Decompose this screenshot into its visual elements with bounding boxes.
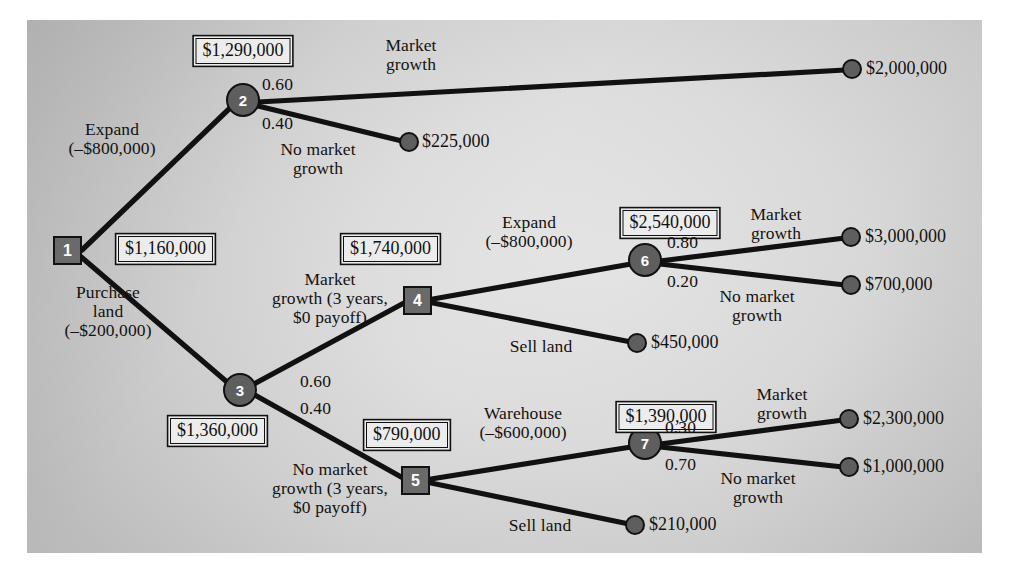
ev-box-node-2: $1,290,000 xyxy=(196,38,291,64)
payoff-n5-sell-land: $210,000 xyxy=(649,514,717,534)
ev-box-node-4: $1,740,000 xyxy=(343,236,438,262)
prob-node-2-no-growth: 0.40 xyxy=(262,114,293,133)
label-market-growth-node-7: Market growth xyxy=(756,385,807,423)
node-2-label: 2 xyxy=(239,92,247,109)
chance-node-3[interactable]: 3 xyxy=(223,373,257,407)
branch-4-to-6 xyxy=(433,264,631,299)
terminal-node-2300000 xyxy=(839,409,859,429)
payoff-n2-no-growth: $225,000 xyxy=(422,131,490,151)
prob-node-2-growth: 0.60 xyxy=(262,75,293,94)
prob-node-6-growth: 0.80 xyxy=(667,233,698,252)
terminal-node-225000 xyxy=(399,132,419,152)
node-1-label: 1 xyxy=(63,242,72,260)
label-expand-from-node-1: Expand (–$800,000) xyxy=(68,120,155,158)
payoff-n6-no-growth: $700,000 xyxy=(865,274,933,294)
node-3-label: 3 xyxy=(236,382,244,399)
ev-box-node-1: $1,160,000 xyxy=(118,236,213,262)
label-no-market-growth-node-7: No market growth xyxy=(720,469,795,507)
chance-node-6[interactable]: 6 xyxy=(628,243,662,277)
decision-node-1[interactable]: 1 xyxy=(53,236,82,265)
terminal-node-3000000 xyxy=(841,227,861,247)
branch-2-to-growth xyxy=(258,70,845,102)
label-no-market-growth-node-3: No market growth (3 years, $0 payoff) xyxy=(272,460,388,517)
chance-node-2[interactable]: 2 xyxy=(226,83,260,117)
payoff-n6-growth: $3,000,000 xyxy=(865,226,946,246)
prob-node-6-no-growth: 0.20 xyxy=(667,272,698,291)
terminal-node-450000 xyxy=(627,333,647,353)
branch-5-to-7 xyxy=(431,447,631,479)
label-market-growth-node-3: Market growth (3 years, $0 payoff) xyxy=(272,270,388,327)
decision-node-5[interactable]: 5 xyxy=(401,466,430,495)
label-no-market-growth-node-6: No market growth xyxy=(719,287,794,325)
decision-node-4[interactable]: 4 xyxy=(403,286,432,315)
terminal-node-700000 xyxy=(841,275,861,295)
prob-node-3-growth: 0.60 xyxy=(300,372,331,391)
payoff-n7-growth: $2,300,000 xyxy=(863,408,944,428)
chance-node-7[interactable]: 7 xyxy=(628,426,662,460)
node-6-label: 6 xyxy=(641,252,649,269)
prob-node-3-no-growth: 0.40 xyxy=(300,399,331,418)
label-expand-from-node-4: Expand (–$800,000) xyxy=(485,213,572,251)
decision-tree-figure: 1 2 3 4 5 6 7 $2,000,000 $225,000 $3,000… xyxy=(0,0,1010,580)
node-4-label: 4 xyxy=(413,292,422,310)
ev-box-node-3: $1,360,000 xyxy=(170,418,265,444)
node-7-label: 7 xyxy=(641,435,649,452)
terminal-node-210000 xyxy=(625,515,645,535)
payoff-n7-no-growth: $1,000,000 xyxy=(863,456,944,476)
label-market-growth-node-6: Market growth xyxy=(750,205,801,243)
prob-node-7-growth: 0.30 xyxy=(665,418,696,437)
node-5-label: 5 xyxy=(411,472,420,490)
label-warehouse-from-node-5: Warehouse (–$600,000) xyxy=(479,404,566,442)
ev-box-node-5: $790,000 xyxy=(366,422,448,448)
label-sell-land-from-node-5: Sell land xyxy=(509,516,572,535)
label-market-growth-node-2: Market growth xyxy=(385,36,436,74)
label-purchase-land-from-node-1: Purchase land (–$200,000) xyxy=(64,283,151,340)
payoff-n4-sell-land: $450,000 xyxy=(651,332,719,352)
terminal-node-2000000 xyxy=(842,59,862,79)
payoff-n2-growth: $2,000,000 xyxy=(866,58,947,78)
prob-node-7-no-growth: 0.70 xyxy=(665,455,696,474)
terminal-node-1000000 xyxy=(839,457,859,477)
label-sell-land-from-node-4: Sell land xyxy=(510,337,573,356)
label-no-market-growth-node-2: No market growth xyxy=(280,140,355,178)
